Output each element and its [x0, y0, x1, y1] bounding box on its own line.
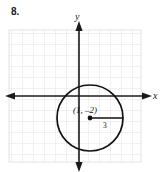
- circle-graph-figure: 8. x y (1, –2): [0, 0, 163, 172]
- coordinate-plane: x y (1, –2) 3: [0, 0, 163, 172]
- y-axis-label: y: [74, 11, 80, 22]
- center-point-marker: [88, 116, 93, 121]
- radius-length-label: 3: [103, 121, 107, 130]
- x-axis-label: x: [152, 90, 158, 101]
- center-point-label: (1, –2): [73, 105, 97, 115]
